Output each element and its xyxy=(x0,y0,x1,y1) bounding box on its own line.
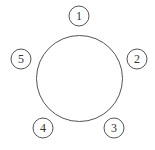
seat-label: 5 xyxy=(18,52,24,66)
seat-label: 1 xyxy=(76,9,82,23)
seat-4: 4 xyxy=(33,118,53,138)
seat-label: 2 xyxy=(134,52,140,66)
seat-label: 4 xyxy=(40,121,46,135)
seat-5: 5 xyxy=(11,49,31,69)
seating-diagram: 1 2 3 4 5 xyxy=(0,0,155,150)
round-table xyxy=(37,36,123,122)
seat-label: 3 xyxy=(111,121,117,135)
seat-3: 3 xyxy=(104,118,124,138)
seat-2: 2 xyxy=(127,49,147,69)
seat-1: 1 xyxy=(69,6,89,26)
